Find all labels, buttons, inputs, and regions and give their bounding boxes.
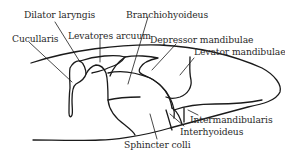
hyoid-divider bbox=[166, 110, 172, 130]
anatomy-diagram: Dilator laryngis Branchiohyoideus Cucull… bbox=[0, 0, 285, 155]
label-cucullaris: Cucullaris bbox=[12, 34, 58, 43]
label-dilator-laryngis: Dilator laryngis bbox=[24, 10, 95, 19]
leader-interhyoideus bbox=[170, 114, 184, 126]
label-interhyoideus: Interhyoideus bbox=[180, 127, 243, 136]
leader-dilator-laryngis bbox=[55, 22, 80, 62]
levatores-arcuum-outline bbox=[80, 56, 125, 73]
branchiohyoideus-outline bbox=[108, 72, 172, 108]
leader-sphincter-colli bbox=[150, 114, 157, 139]
label-branchiohyoideus: Branchiohyoideus bbox=[126, 10, 208, 19]
cucullaris-outline bbox=[69, 61, 86, 117]
label-levatores-arcuum: Levatores arcuum bbox=[68, 31, 151, 40]
depressor-mandibulae-outline bbox=[125, 56, 174, 118]
label-sphincter-colli: Sphincter colli bbox=[124, 140, 191, 149]
lower-jaw-line bbox=[108, 97, 140, 100]
intermandibular-band bbox=[174, 100, 262, 110]
leader-levator-mandibulae bbox=[180, 58, 194, 75]
levator-mandibulae-outline bbox=[166, 57, 191, 99]
label-intermandibularis: Intermandibularis bbox=[190, 115, 273, 124]
label-depressor-mandibulae: Depressor mandibulae bbox=[150, 35, 253, 44]
label-levator-mandibulae: Levator mandibulae bbox=[194, 47, 285, 56]
